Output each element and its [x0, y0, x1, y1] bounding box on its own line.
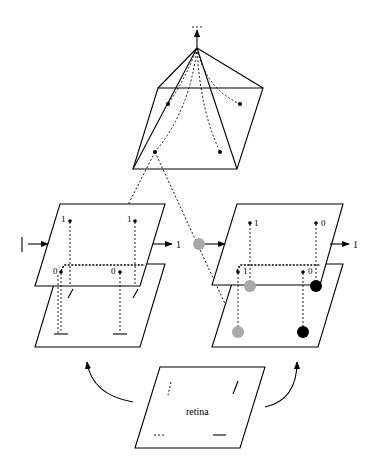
pyramid-edge: [197, 48, 263, 88]
right-activation-black: [310, 280, 322, 292]
left-lower-unit-label: 0: [111, 266, 116, 276]
pyramid-edge: [158, 48, 197, 88]
pyramid-edge: [133, 48, 197, 169]
left-upper-unit-label: 1: [61, 214, 66, 224]
right-lower-activation-black: [297, 326, 309, 338]
left-module: 1 1 1 0 0: [22, 204, 181, 347]
right-input-unit-gray: [193, 238, 205, 250]
right-module: 1 1 0 1 0: [193, 204, 358, 347]
left-output-label: 1: [176, 239, 181, 250]
right-output-label: 1: [353, 239, 358, 250]
neural-hierarchy-diagram: 1 1 1 0 0 1 1: [0, 0, 375, 470]
left-lower-unit-label: 0: [53, 266, 58, 276]
right-upper-unit-label: 0: [321, 218, 326, 228]
pyramid-connection: [197, 48, 220, 152]
retina-to-right-arrow: [265, 362, 297, 407]
left-upper-unit-label: 1: [127, 214, 132, 224]
right-upper-plane: [212, 204, 343, 285]
right-lower-unit-label: 1: [243, 266, 248, 276]
right-activation-gray: [244, 280, 256, 292]
right-lower-activation-gray: [232, 326, 244, 338]
right-lower-unit-label: 0: [308, 266, 313, 276]
pyramid-edge: [197, 48, 237, 169]
retina-to-left-arrow: [87, 362, 133, 402]
pyramid-connection: [197, 48, 240, 104]
pyramid-unit: [218, 150, 222, 154]
pyramid-unit: [238, 102, 242, 106]
retina: retina: [135, 367, 265, 448]
pyramid-unit: [166, 102, 170, 106]
pyramid-output-unit: [133, 27, 263, 169]
retina-label: retina: [186, 406, 209, 417]
right-upper-unit-label: 1: [254, 218, 259, 228]
